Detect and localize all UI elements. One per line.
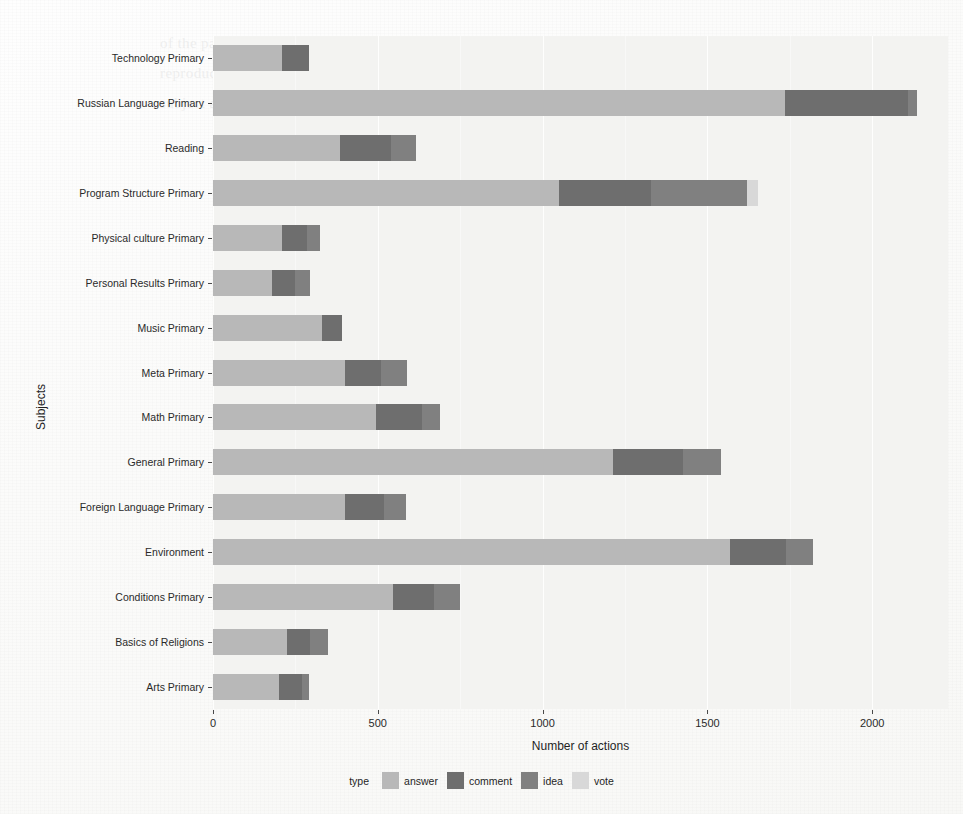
x-tick-mark (213, 710, 214, 714)
bar-segment-answer (213, 135, 340, 161)
x-tick-label: 500 (369, 717, 387, 729)
bar-segment-idea (384, 494, 405, 520)
bar-row (213, 629, 948, 655)
y-tick-mark (208, 103, 212, 104)
bar-segment-idea (422, 404, 440, 430)
bar-segment-comment (345, 360, 381, 386)
y-tick-mark (208, 507, 212, 508)
y-tick-label: Basics of Religions (115, 636, 204, 648)
y-tick-label: Personal Results Primary (86, 277, 204, 289)
bar-row (213, 135, 948, 161)
bar-segment-comment (345, 494, 385, 520)
bar-segment-comment (730, 539, 786, 565)
legend-label: vote (594, 775, 614, 787)
bar-segment-comment (376, 404, 422, 430)
bar-segment-comment (785, 90, 909, 116)
bar-segment-answer (213, 90, 785, 116)
y-tick-label: Environment (145, 546, 204, 558)
legend-swatch-answer (382, 772, 399, 789)
y-tick-label: Technology Primary (112, 52, 204, 64)
bar-row (213, 225, 948, 251)
y-tick-label: General Primary (128, 456, 204, 468)
bar-segment-idea (295, 270, 310, 296)
bar-segment-idea (381, 360, 407, 386)
legend-entry-vote[interactable]: vote (572, 772, 614, 789)
bar-segment-answer (213, 404, 376, 430)
bar-segment-answer (213, 45, 282, 71)
bar-segment-answer (213, 674, 279, 700)
legend-entry-comment[interactable]: comment (447, 772, 512, 789)
y-tick-label: Foreign Language Primary (80, 501, 204, 513)
x-axis-title: Number of actions (213, 739, 948, 753)
bar-segment-answer (213, 360, 345, 386)
bar-row (213, 449, 948, 475)
bar-row (213, 539, 948, 565)
bar-segment-comment (287, 629, 310, 655)
bar-segment-idea (434, 584, 460, 610)
bar-row (213, 494, 948, 520)
bar-row (213, 360, 948, 386)
x-tick-mark (378, 710, 379, 714)
legend: type answercommentideavote (0, 772, 963, 789)
y-tick-mark (208, 328, 212, 329)
legend-swatch-vote (572, 772, 589, 789)
bar-segment-comment (272, 270, 295, 296)
bar-segment-idea (786, 539, 812, 565)
bar-row (213, 674, 948, 700)
bar-segment-answer (213, 449, 613, 475)
y-tick-mark (208, 417, 212, 418)
bar-segment-comment (613, 449, 682, 475)
bar-row (213, 90, 948, 116)
bar-segment-answer (213, 494, 345, 520)
bar-segment-comment (340, 135, 391, 161)
bar-row (213, 45, 948, 71)
x-tick-label: 0 (210, 717, 216, 729)
y-tick-mark (208, 642, 212, 643)
bar-row (213, 180, 948, 206)
bar-segment-vote (747, 180, 759, 206)
bar-segment-idea (908, 90, 916, 116)
bar-segment-answer (213, 225, 282, 251)
bar-segment-answer (213, 539, 730, 565)
bar-segment-comment (282, 45, 308, 71)
y-tick-label: Russian Language Primary (77, 97, 204, 109)
y-tick-mark (208, 193, 212, 194)
x-tick-mark (872, 710, 873, 714)
bar-segment-answer (213, 315, 322, 341)
y-tick-label: Physical culture Primary (91, 232, 204, 244)
legend-label: comment (469, 775, 512, 787)
legend-entry-answer[interactable]: answer (382, 772, 438, 789)
bar-segment-idea (391, 135, 416, 161)
bar-segment-comment (279, 674, 302, 700)
legend-label: answer (404, 775, 438, 787)
stacked-bar-chart: Subjects Number of actions Technology Pr… (0, 0, 963, 814)
bar-segment-answer (213, 584, 393, 610)
y-tick-label: Reading (165, 142, 204, 154)
bar-segment-answer (213, 180, 559, 206)
x-tick-mark (543, 710, 544, 714)
y-tick-mark (208, 687, 212, 688)
y-tick-mark (208, 552, 212, 553)
legend-title: type (349, 775, 369, 787)
y-tick-mark (208, 597, 212, 598)
y-tick-mark (208, 148, 212, 149)
y-tick-mark (208, 283, 212, 284)
bar-segment-comment (282, 225, 307, 251)
bar-row (213, 404, 948, 430)
y-tick-label: Conditions Primary (115, 591, 204, 603)
y-tick-mark (208, 462, 212, 463)
legend-entries: answercommentideavote (382, 772, 614, 789)
bar-row (213, 315, 948, 341)
bar-row (213, 584, 948, 610)
x-tick-mark (707, 710, 708, 714)
legend-swatch-idea (521, 772, 538, 789)
bar-segment-idea (683, 449, 721, 475)
y-tick-mark (208, 238, 212, 239)
bar-segment-answer (213, 270, 272, 296)
bar-segment-idea (302, 674, 309, 700)
legend-entry-idea[interactable]: idea (521, 772, 563, 789)
legend-swatch-comment (447, 772, 464, 789)
legend-label: idea (543, 775, 563, 787)
plot-area (213, 36, 948, 709)
y-tick-label: Arts Primary (146, 681, 204, 693)
